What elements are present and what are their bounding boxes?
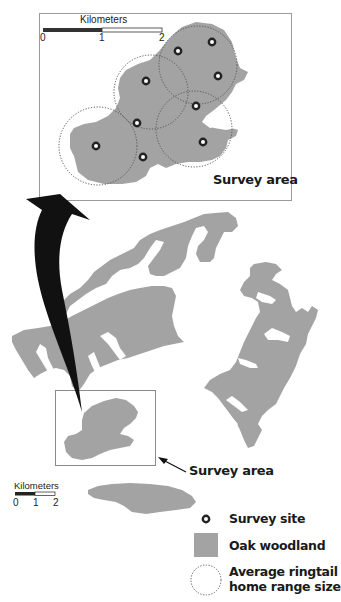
main-scale-tick-1: 1: [33, 497, 39, 508]
main-survey-area-label: Survey area: [189, 463, 274, 478]
legend-survey-site-label: Survey site: [229, 511, 305, 526]
survey-area-pointer: [158, 457, 186, 472]
main-scale-title: Kilometers: [14, 480, 59, 491]
survey-site-marker[interactable]: [134, 120, 140, 126]
inset-scale-title: Kilometers: [80, 14, 127, 25]
survey-site-marker[interactable]: [193, 103, 199, 109]
survey-site-marker[interactable]: [209, 39, 215, 45]
legend-home-range-label-1: Average ringtail: [229, 564, 338, 579]
legend-oak-woodland-label: Oak woodland: [229, 538, 325, 553]
inset-survey-area-label: Survey area: [213, 172, 298, 187]
home-range-icon: [191, 565, 221, 595]
main-scale-tick-0: 0: [13, 497, 19, 508]
main-scale-tick-2: 2: [53, 497, 59, 508]
legend-symbols: [191, 516, 221, 595]
oak-woodland-swatch: [194, 533, 218, 557]
main-scale-bar: [15, 492, 55, 496]
inset-scale-tick-2: 2: [159, 32, 165, 43]
legend-home-range-label-2: home range size: [229, 579, 341, 594]
survey-site-marker[interactable]: [200, 139, 206, 145]
survey-site-marker[interactable]: [175, 48, 181, 54]
survey-site-marker[interactable]: [143, 78, 149, 84]
inset-scale-tick-0: 0: [40, 32, 46, 43]
survey-site-marker[interactable]: [93, 143, 99, 149]
survey-site-marker[interactable]: [215, 73, 221, 79]
inset-scale-tick-1: 1: [99, 32, 105, 43]
survey-site-icon: [203, 516, 209, 522]
survey-site-marker[interactable]: [140, 154, 146, 160]
